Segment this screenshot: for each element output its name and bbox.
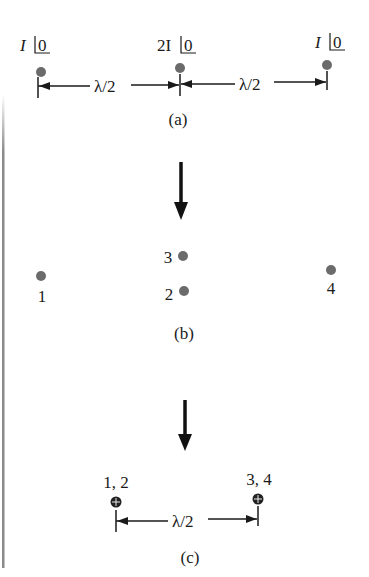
array-decomposition-diagram: I 0 2I 0 I 0 λ/2 λ/2 <box>0 0 369 577</box>
element-label: 1 <box>38 287 47 306</box>
element-label: 4 <box>327 279 336 298</box>
spacing-label: λ/2 <box>94 77 115 96</box>
element-dot <box>322 60 332 70</box>
arrowhead-left-icon <box>181 80 192 88</box>
current-phase: 0 <box>333 33 342 52</box>
current-magnitude: I <box>314 33 322 52</box>
element-dot <box>36 67 46 77</box>
element-label: 1, 2 <box>103 473 129 492</box>
arrowhead-right-icon <box>168 81 179 89</box>
current-label-3: I 0 <box>314 33 345 52</box>
arrowhead-right-icon <box>246 515 257 523</box>
element-label: 3, 4 <box>246 470 272 489</box>
element-dot <box>36 271 46 281</box>
combined-element-dot <box>253 494 264 505</box>
element-dot <box>179 286 189 296</box>
spacing-label: λ/2 <box>172 512 193 531</box>
current-phase: 0 <box>38 36 47 55</box>
element-dot <box>178 251 188 261</box>
current-label-2: 2I 0 <box>157 36 196 55</box>
current-magnitude: I <box>19 36 27 55</box>
down-arrow-icon <box>174 162 188 220</box>
current-phase: 0 <box>184 36 193 55</box>
panel-caption: (a) <box>169 110 188 129</box>
arrowhead-left-icon <box>117 517 128 525</box>
arrowhead-left-icon <box>39 82 50 90</box>
spacing-label: λ/2 <box>239 75 260 94</box>
panel-b: 1 2 3 4 (b) <box>36 248 336 343</box>
element-dot <box>326 265 336 275</box>
element-label: 2 <box>165 285 174 304</box>
arrowhead-right-icon <box>315 78 326 86</box>
diagram-canvas: I 0 2I 0 I 0 λ/2 λ/2 <box>0 0 369 577</box>
down-arrow-icon <box>178 400 192 451</box>
current-label-1: I 0 <box>19 36 50 55</box>
element-dot <box>175 63 185 73</box>
page-border-line <box>2 95 5 568</box>
element-label: 3 <box>164 248 173 267</box>
panel-caption: (c) <box>181 548 200 567</box>
panel-c: 1, 2 3, 4 λ/2 (c) <box>103 470 272 567</box>
panel-a: I 0 2I 0 I 0 λ/2 λ/2 <box>19 33 345 129</box>
combined-element-dot <box>111 497 122 508</box>
current-magnitude: 2I <box>157 36 172 55</box>
panel-caption: (b) <box>174 324 194 343</box>
